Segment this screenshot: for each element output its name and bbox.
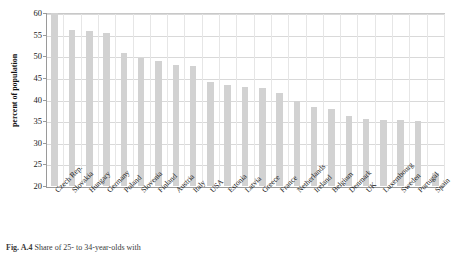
bar (190, 66, 197, 186)
x-axis-labels: Czech Rep.SlovakiaHungaryGermanyPolandSl… (46, 188, 444, 238)
y-tick-mark (43, 186, 46, 187)
bar (173, 65, 180, 186)
bar (224, 85, 231, 186)
y-tick-label: 45 (12, 73, 42, 83)
y-tick-label: 50 (12, 51, 42, 61)
vertical-gridline (444, 14, 445, 187)
y-tick-mark (43, 13, 46, 14)
caption-text: Share of 25- to 34-year-olds with (34, 243, 140, 252)
y-tick-label: 60 (12, 8, 42, 18)
bar-chart: percent of population 202530354045505560… (0, 0, 449, 238)
bar (259, 88, 266, 186)
bar (69, 30, 76, 186)
y-tick-mark (43, 143, 46, 144)
caption-label: Fig. A.4 (6, 243, 32, 252)
y-tick-label: 40 (12, 95, 42, 105)
bar (138, 58, 145, 186)
y-tick-label: 30 (12, 138, 42, 148)
bar (155, 61, 162, 186)
bar (86, 31, 93, 186)
bar (51, 13, 58, 186)
y-axis-ticks: 202530354045505560 (8, 13, 42, 186)
y-tick-mark (43, 100, 46, 101)
bar-series (46, 13, 444, 186)
y-tick-label: 35 (12, 116, 42, 126)
y-tick-mark (43, 121, 46, 122)
bar (103, 33, 110, 186)
y-tick-label: 20 (12, 181, 42, 191)
y-tick-mark (43, 164, 46, 165)
y-tick-label: 55 (12, 30, 42, 40)
bar (121, 53, 128, 186)
bar (207, 82, 214, 186)
figure-caption: Fig. A.4 Share of 25- to 34-year-olds wi… (6, 243, 436, 252)
bar (294, 101, 301, 186)
bar (380, 120, 387, 186)
y-tick-mark (43, 78, 46, 79)
y-tick-label: 25 (12, 159, 42, 169)
bar (242, 87, 249, 186)
bar (276, 93, 283, 186)
y-tick-mark (43, 56, 46, 57)
y-tick-mark (43, 35, 46, 36)
